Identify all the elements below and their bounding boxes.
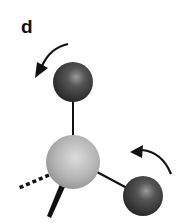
rotation-arrow-right-icon xyxy=(130,145,171,174)
figure-canvas: d xyxy=(0,0,179,223)
right-atom xyxy=(123,176,163,216)
bond-dashed xyxy=(19,175,49,188)
top-atom xyxy=(53,62,93,102)
molecule-diagram xyxy=(0,0,179,223)
bond-right xyxy=(97,172,127,188)
bond-wedge xyxy=(47,184,65,218)
central-atom xyxy=(46,135,100,189)
